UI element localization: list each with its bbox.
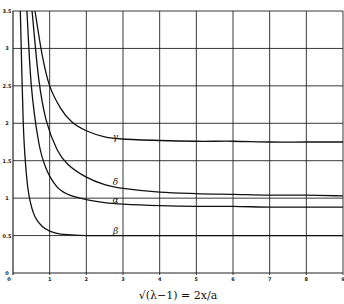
y-tick-label: 1.5	[3, 158, 12, 164]
curve-δ	[32, 11, 343, 196]
curve-label: β	[112, 226, 118, 236]
curve-label: δ	[113, 177, 118, 187]
curve-label: α	[112, 195, 118, 205]
y-tick-label: 3	[5, 45, 9, 51]
x-tick-label: 2	[85, 276, 89, 282]
x-tick-label: 5	[195, 276, 199, 282]
x-axis-label: √(λ−1) = 2x/a	[139, 289, 218, 302]
axis-ticks: 012345678900.511.522.533.5	[3, 8, 344, 282]
x-tick-label: 0	[7, 276, 11, 282]
curve-α	[27, 11, 343, 207]
x-tick-label: 4	[158, 276, 162, 282]
x-tick-label: 3	[121, 276, 125, 282]
curve-γ	[35, 11, 343, 142]
y-tick-label: 0	[5, 270, 9, 276]
x-tick-label: 8	[305, 276, 309, 282]
curve-labels: γδαβ	[112, 132, 119, 236]
y-tick-label: 2	[5, 120, 9, 126]
x-tick-label: 7	[268, 276, 272, 282]
y-tick-label: 1	[5, 195, 9, 201]
y-tick-label: 2.5	[3, 83, 12, 89]
x-tick-label: 6	[231, 276, 235, 282]
y-tick-label: 0.5	[3, 233, 12, 239]
chart-canvas: γδαβ 012345678900.511.522.533.5 √(λ−1) =…	[0, 0, 344, 304]
x-tick-label: 1	[48, 276, 52, 282]
y-tick-label: 3.5	[3, 8, 12, 14]
curve-label: γ	[113, 132, 119, 142]
